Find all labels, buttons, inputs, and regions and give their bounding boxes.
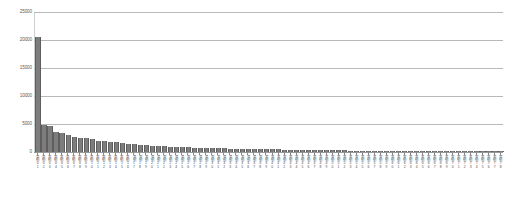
x-tick-label: 类别24: [174, 155, 178, 169]
x-tick-label: 类别78: [498, 155, 502, 169]
x-tick-label: 类别39: [264, 155, 268, 169]
bar: [59, 133, 64, 152]
x-tick-label: 类别69: [444, 155, 448, 169]
x-tick-label: 类别72: [462, 155, 466, 169]
x-tick-label: 类别21: [155, 155, 159, 169]
x-tick-label: 类别04: [53, 155, 57, 169]
bar: [53, 132, 58, 152]
bar: [78, 138, 83, 152]
x-tick-label: 类别16: [125, 155, 129, 169]
bar: [132, 144, 137, 152]
x-tick-label: 类别14: [113, 155, 117, 169]
x-tick-label: 类别23: [167, 155, 171, 169]
x-tick-label: 类别40: [270, 155, 274, 169]
y-tick-label: 0: [2, 150, 32, 155]
bar: [84, 138, 89, 152]
x-tick-label: 类别48: [318, 155, 322, 169]
x-tick-label: 类别67: [432, 155, 436, 169]
x-tick-label: 类别03: [47, 155, 51, 169]
bar: [47, 126, 52, 152]
x-tick-label: 类别26: [186, 155, 190, 169]
x-tick-label: 类别25: [180, 155, 184, 169]
x-tick-label: 类别70: [450, 155, 454, 169]
x-tick-label: 类别61: [396, 155, 400, 169]
x-tick-label: 类别01: [35, 155, 39, 169]
x-tick-label: 类别10: [89, 155, 93, 169]
y-tick-label: 15000: [2, 66, 32, 71]
x-tick-label: 类别43: [288, 155, 292, 169]
x-tick-label: 类别20: [149, 155, 153, 169]
x-tick-label: 类别08: [77, 155, 81, 169]
x-tick-label: 类别57: [372, 155, 376, 169]
x-tick-label: 类别52: [342, 155, 346, 169]
x-tick-label: 类别65: [420, 155, 424, 169]
x-tick-label: 类别34: [234, 155, 238, 169]
x-tick-label: 类别64: [414, 155, 418, 169]
y-tick-label: 20000: [2, 38, 32, 43]
bar-series: [34, 12, 503, 153]
bar: [144, 145, 149, 152]
bar: [108, 142, 113, 152]
bar: [96, 141, 101, 152]
x-tick-label: 类别71: [456, 155, 460, 169]
bar: [35, 37, 40, 152]
x-tick-label: 类别30: [210, 155, 214, 169]
x-tick-label: 类别49: [324, 155, 328, 169]
x-tick-label: 类别09: [83, 155, 87, 169]
x-tick-label: 类别75: [480, 155, 484, 169]
x-tick-label: 类别42: [282, 155, 286, 169]
x-tick-label: 类别47: [312, 155, 316, 169]
x-tick-label: 类别31: [216, 155, 220, 169]
bar: [72, 137, 77, 152]
x-tick-label: 类别32: [222, 155, 226, 169]
x-axis-tick-labels: 类别01类别02类别03类别04类别05类别06类别07类别08类别09类别10…: [34, 155, 503, 206]
x-tick-label: 类别77: [492, 155, 496, 169]
bar: [102, 141, 107, 152]
x-tick-label: 类别50: [330, 155, 334, 169]
x-tick-label: 类别59: [384, 155, 388, 169]
x-tick-label: 类别51: [336, 155, 340, 169]
x-tick-label: 类别60: [390, 155, 394, 169]
x-tick-label: 类别63: [408, 155, 412, 169]
bar: [41, 125, 46, 152]
x-tick-label: 类别74: [474, 155, 478, 169]
x-tick-label: 类别22: [161, 155, 165, 169]
x-tick-label: 类别29: [204, 155, 208, 169]
x-tick-label: 类别28: [198, 155, 202, 169]
bar: [66, 135, 71, 152]
x-tick-label: 类别18: [137, 155, 141, 169]
x-tick-label: 类别12: [101, 155, 105, 169]
x-tick-label: 类别11: [95, 155, 99, 169]
x-tick-label: 类别07: [71, 155, 75, 169]
x-tick-label: 类别44: [294, 155, 298, 169]
x-tick-label: 类别68: [438, 155, 442, 169]
x-tick-label: 类别17: [131, 155, 135, 169]
x-tick-label: 类别54: [354, 155, 358, 169]
bar: [90, 139, 95, 152]
x-tick-label: 类别37: [252, 155, 256, 169]
x-tick-label: 类别62: [402, 155, 406, 169]
x-tick-label: 类别35: [240, 155, 244, 169]
bar: [120, 143, 125, 152]
x-tick-label: 类别41: [276, 155, 280, 169]
x-tick-label: 类别38: [258, 155, 262, 169]
y-tick-label: 25000: [2, 10, 32, 15]
x-tick-label: 类别27: [192, 155, 196, 169]
x-tick-label: 类别15: [119, 155, 123, 169]
x-tick-label: 类别02: [41, 155, 45, 169]
x-tick-label: 类别56: [366, 155, 370, 169]
x-tick-label: 类别53: [348, 155, 352, 169]
x-tick-label: 类别58: [378, 155, 382, 169]
bar: [138, 145, 143, 152]
x-tick-label: 类别46: [306, 155, 310, 169]
x-tick-label: 类别36: [246, 155, 250, 169]
x-tick-label: 类别55: [360, 155, 364, 169]
x-tick-label: 类别13: [107, 155, 111, 169]
bar-chart: 0500010000150002000025000 类别01类别02类别03类别…: [0, 0, 515, 206]
y-tick-label: 10000: [2, 94, 32, 99]
x-tick-label: 类别19: [143, 155, 147, 169]
x-tick-label: 类别45: [300, 155, 304, 169]
bar: [126, 144, 131, 152]
x-tick-label: 类别73: [468, 155, 472, 169]
y-tick-label: 5000: [2, 122, 32, 127]
